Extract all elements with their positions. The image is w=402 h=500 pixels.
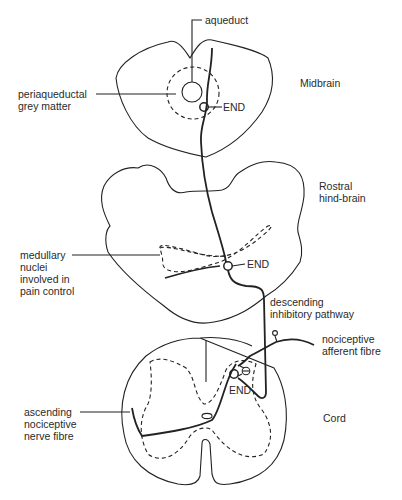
label-medullary-line2: nuclei xyxy=(20,261,47,274)
afferent-receptor xyxy=(273,331,278,336)
medullary-input-fibre xyxy=(165,266,220,278)
ascending-nociceptive-fibre xyxy=(132,364,236,436)
aqueduct-leader xyxy=(192,20,202,82)
end-leader-medulla xyxy=(232,264,245,266)
midbrain-outline xyxy=(116,40,273,157)
label-pag-line2: grey matter xyxy=(18,100,71,113)
label-afferent-line1: nociceptive xyxy=(322,333,375,346)
region-midbrain: Midbrain xyxy=(300,77,340,90)
label-aqueduct: aqueduct xyxy=(205,14,248,27)
label-descending-line2: inhibitory pathway xyxy=(270,308,354,321)
label-medullary-line1: medullary xyxy=(20,249,66,262)
label-ascending-line1: ascending xyxy=(24,406,72,419)
cord-outline xyxy=(122,337,287,484)
label-end-midbrain: END xyxy=(223,101,245,114)
label-ascending-line3: nerve fibre xyxy=(24,430,74,443)
label-medullary-line4: pain control xyxy=(20,285,74,298)
label-descending-line1: descending xyxy=(270,296,324,309)
label-end-medulla: END xyxy=(247,258,269,271)
label-medullary-line3: involved in xyxy=(20,273,70,286)
label-afferent-line2: afferent fibre xyxy=(322,345,381,358)
label-end-cord: END xyxy=(229,384,251,397)
region-hindbrain-line1: Rostral xyxy=(319,180,352,193)
ascending-cell-body xyxy=(202,413,212,418)
descending-neuron-1 xyxy=(201,48,226,262)
region-cord: Cord xyxy=(323,412,346,425)
periaqueductal-grey-outline xyxy=(167,67,219,119)
label-ascending-line2: nociceptive xyxy=(24,418,77,431)
end-synapse-medulla xyxy=(224,262,232,270)
label-pag-line1: periaqueductal xyxy=(18,88,87,101)
region-hindbrain-line2: hind-brain xyxy=(319,192,366,205)
aqueduct-circle xyxy=(182,82,202,102)
